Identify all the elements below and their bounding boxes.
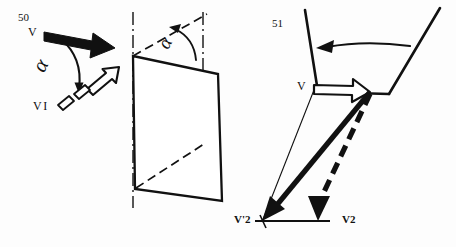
label-vector-v2: V2 <box>342 214 355 225</box>
label-vector-v-right: V <box>297 80 306 92</box>
label-vector-v-left: V <box>28 26 37 38</box>
solid-black-arrow-V <box>44 32 115 58</box>
figure-canvas: 50 V VI α α 51 V V'2 V2 <box>0 0 456 247</box>
circulation-arrow <box>316 40 410 53</box>
figure-vector-graphics <box>0 0 456 247</box>
vessel-outline <box>305 8 440 94</box>
ref-number-51: 51 <box>272 18 283 29</box>
label-vector-v1: VI <box>33 100 49 112</box>
ref-number-50: 50 <box>18 12 29 23</box>
label-vector-v-prime-2: V'2 <box>234 214 251 225</box>
hollow-outlined-arrow-V1 <box>87 67 119 95</box>
dashed-tail-segments <box>58 85 90 110</box>
plane-parallelogram <box>133 56 222 201</box>
